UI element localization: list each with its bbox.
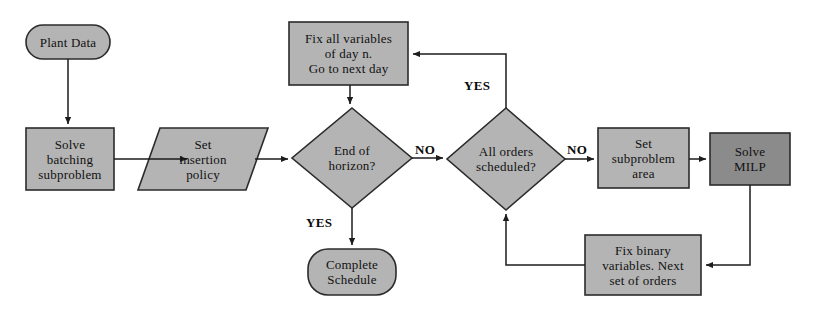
- edge-label-yes-all-orders: YES: [464, 78, 490, 94]
- flowchart-canvas: [0, 0, 818, 313]
- node-plant-data: [26, 25, 110, 59]
- node-all-orders-scheduled: [447, 108, 565, 210]
- edge-all-orders-yes-to-fix-all-variables: [413, 54, 506, 108]
- node-set-subproblem-area: [598, 128, 689, 188]
- edge-fix-binary-to-all-orders: [506, 214, 585, 265]
- node-end-of-horizon: [292, 108, 412, 208]
- node-complete-schedule: [308, 249, 396, 295]
- edge-label-no-end-of-horizon: NO: [415, 142, 435, 158]
- node-solve-milp: [710, 133, 790, 185]
- node-solve-batching-subproblem: [26, 128, 114, 190]
- node-fix-all-variables: [289, 22, 408, 85]
- edge-label-no-all-orders: NO: [567, 142, 587, 158]
- node-fix-binary-variables: [585, 235, 701, 295]
- edge-solve-milp-to-fix-binary: [706, 185, 750, 265]
- flowchart-diagram: Plant Data Solve batching subproblem Set…: [0, 0, 818, 313]
- edge-label-yes-end-of-horizon: YES: [306, 215, 332, 231]
